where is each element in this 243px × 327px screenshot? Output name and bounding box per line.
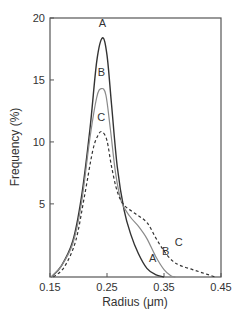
curve-label-c: C — [175, 236, 183, 248]
y-axis-title: Frequency (%) — [8, 108, 22, 187]
y-axis-ticks: 5101520 — [33, 12, 54, 210]
x-axis-title: Radius (μm) — [102, 295, 168, 309]
plot-frame — [50, 18, 221, 277]
curves — [51, 38, 215, 277]
y-tick-label: 20 — [33, 12, 45, 24]
curve-labels: AABBCC — [97, 17, 183, 264]
curve-a — [51, 38, 164, 277]
y-tick-label: 10 — [33, 136, 45, 148]
x-tick-label: 0.45 — [210, 281, 231, 293]
x-tick-label: 0.15 — [39, 281, 60, 293]
curve-label-a: A — [149, 252, 157, 264]
frequency-vs-radius-chart: 5101520 0.150.250.350.45 AABBCC Radius (… — [0, 0, 243, 327]
curve-label-b: B — [162, 245, 169, 257]
plot-border — [50, 18, 221, 277]
curve-c — [53, 132, 215, 277]
curve-label-a: A — [99, 17, 107, 29]
y-tick-label: 5 — [39, 198, 45, 210]
x-tick-label: 0.35 — [153, 281, 174, 293]
curve-label-b: B — [98, 66, 105, 78]
x-axis-ticks: 0.150.250.350.45 — [39, 273, 231, 293]
x-tick-label: 0.25 — [96, 281, 117, 293]
y-tick-label: 15 — [33, 74, 45, 86]
curve-label-c: C — [97, 111, 105, 123]
